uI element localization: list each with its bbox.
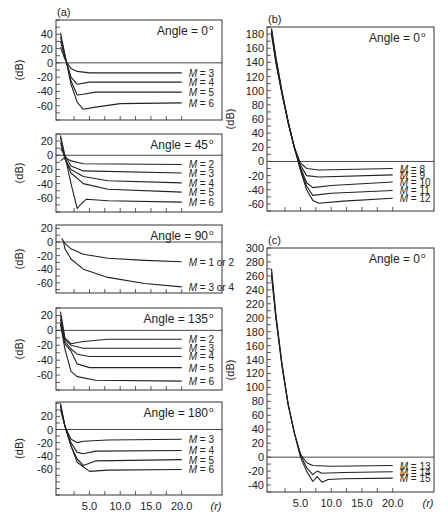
y-tick-label: -20 — [248, 170, 264, 182]
y-tick-label: -60 — [248, 198, 264, 210]
y-tick-label: -40 — [37, 450, 53, 462]
panel-label: (a) — [57, 6, 70, 18]
x-axis-label: (r) — [211, 500, 222, 512]
y-tick-label: -60 — [37, 100, 53, 112]
chart-title: Angle = 0 — [369, 31, 420, 45]
y-tick-label: 0 — [258, 155, 264, 167]
chart-title: Angle = 0 — [369, 252, 420, 266]
y-tick-label: 0 — [47, 236, 53, 248]
x-axis-label: (r) — [423, 497, 434, 509]
y-tick-label: 0 — [47, 149, 53, 161]
y-tick-label: 260 — [246, 270, 264, 282]
y-tick-label: 80 — [252, 395, 264, 407]
series-label: M = 5 — [189, 363, 215, 374]
series-label: M = 6 — [189, 197, 215, 208]
y-tick-label: -40 — [37, 178, 53, 190]
series-line — [272, 33, 393, 177]
chart-title: Angle = 45 — [150, 138, 208, 152]
chart-panel-4: 200-20-40-60(dB)5.010.015.020.0(r)Angle … — [13, 402, 222, 512]
x-tick-label: 10.0 — [109, 500, 130, 512]
y-tick-label: 120 — [246, 367, 264, 379]
y-tick-label: 20 — [252, 141, 264, 153]
plot-frame — [267, 248, 434, 492]
series-line — [272, 276, 393, 466]
y-tick-label: 220 — [246, 298, 264, 310]
y-tick-label: 140 — [246, 354, 264, 366]
series-label: M = 6 — [189, 98, 215, 109]
series-line — [61, 47, 182, 73]
series-line — [61, 37, 182, 95]
chart-title: Angle = 90 — [150, 229, 208, 243]
chart-panel-2: 200-20-40-60(dB)Angle = 90oM = 1 or 2M =… — [13, 222, 234, 293]
y-tick-label: 0 — [47, 324, 53, 336]
y-tick-label: -20 — [248, 465, 264, 477]
y-tick-label: -40 — [37, 85, 53, 97]
series-label: M = 3 or 4 — [189, 282, 235, 293]
series-line — [61, 324, 182, 381]
chart-panel-3: 200-20-40-60(dB)Angle = 135oM = 2M = 3M … — [13, 308, 222, 390]
y-tick-label: 0 — [47, 424, 53, 436]
y-tick-label: -20 — [37, 250, 53, 262]
degree-superscript: o — [209, 228, 214, 237]
y-tick-label: 40 — [41, 28, 53, 40]
y-axis-label: (dB) — [224, 109, 236, 130]
degree-superscript: o — [421, 30, 426, 39]
degree-superscript: o — [209, 23, 214, 32]
y-tick-label: 300 — [246, 242, 264, 254]
x-tick-label: 5.0 — [82, 500, 97, 512]
y-tick-label: 0 — [47, 57, 53, 69]
y-axis-label: (dB) — [13, 249, 25, 270]
y-tick-label: -60 — [37, 463, 53, 475]
chart-title: Angle = 180 — [144, 406, 209, 420]
x-tick-label: 15.0 — [140, 500, 161, 512]
y-tick-label: 60 — [252, 409, 264, 421]
series-label: M = 1 or 2 — [189, 257, 235, 268]
degree-superscript: o — [209, 405, 214, 414]
y-tick-label: 100 — [246, 381, 264, 393]
series-label: M = 6 — [189, 464, 215, 475]
y-tick-label: 20 — [41, 222, 53, 234]
series-label: M = 4 — [189, 351, 215, 362]
series-line — [272, 30, 393, 196]
y-tick-label: -40 — [37, 263, 53, 275]
panel-label: (b) — [268, 13, 281, 25]
y-tick-label: -60 — [37, 277, 53, 289]
series-line — [64, 242, 182, 287]
y-tick-label: 0 — [258, 451, 264, 463]
y-tick-label: -60 — [37, 192, 53, 204]
y-tick-label: 140 — [246, 56, 264, 68]
degree-superscript: o — [209, 137, 214, 146]
chart-panel-1: 200-20-40-60(dB)Angle = 45oM = 2M = 3M =… — [13, 134, 222, 212]
series-line — [61, 323, 182, 368]
y-tick-label: 180 — [246, 326, 264, 338]
chart-panel-6: 3002802602402202001801601401201008060402… — [224, 234, 434, 509]
series-line — [272, 269, 393, 482]
y-tick-label: -20 — [37, 339, 53, 351]
y-tick-label: 280 — [246, 256, 264, 268]
y-tick-label: 60 — [252, 113, 264, 125]
x-tick-label: 20.0 — [382, 497, 403, 509]
y-tick-label: 120 — [246, 71, 264, 83]
y-tick-label: 200 — [246, 312, 264, 324]
x-tick-label: 20.0 — [171, 500, 192, 512]
chart-title: Angle = 0 — [157, 24, 208, 38]
y-tick-label: 20 — [252, 437, 264, 449]
y-tick-label: -40 — [248, 479, 264, 491]
series-line — [272, 31, 393, 187]
y-tick-label: 100 — [246, 85, 264, 97]
y-axis-label: (dB) — [13, 438, 25, 459]
y-axis-label: (dB) — [224, 360, 236, 381]
y-tick-label: -40 — [248, 184, 264, 196]
chart-title: Angle = 135 — [144, 312, 209, 326]
series-line — [272, 34, 393, 170]
y-tick-label: -60 — [37, 369, 53, 381]
y-tick-label: -20 — [37, 71, 53, 83]
figure-canvas: 40200-20-40-60(dB)(a)Angle = 0oM = 3M = … — [0, 0, 448, 519]
series-line — [61, 157, 182, 164]
series-label: M = 12 — [400, 193, 431, 204]
series-line — [272, 272, 393, 474]
y-tick-label: -20 — [37, 437, 53, 449]
y-tick-label: 40 — [252, 127, 264, 139]
y-tick-label: 80 — [252, 99, 264, 111]
y-tick-label: -20 — [37, 163, 53, 175]
